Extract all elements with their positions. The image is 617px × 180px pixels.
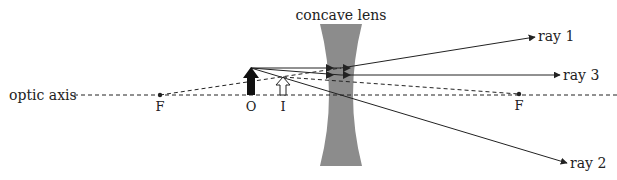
lens-label: concave lens — [295, 7, 386, 23]
image-arrow — [276, 77, 290, 95]
focal-right-label: F — [514, 98, 523, 113]
optic-axis-label: optic axis — [9, 87, 77, 103]
focal-left-label: F — [155, 99, 164, 114]
ray-1-line — [341, 37, 535, 68]
ray-2-label: ray 2 — [570, 155, 606, 171]
image-label: I — [280, 99, 285, 114]
virtual-ray-to-right-focus — [283, 77, 519, 94]
object-label: O — [246, 99, 257, 114]
object-arrow — [243, 67, 259, 95]
ray-diagram: concave lens optic axis F F O I ray 1 ra… — [0, 0, 617, 180]
ray-3-label: ray 3 — [563, 67, 599, 83]
ray-2-line — [251, 68, 567, 163]
ray-1-label: ray 1 — [538, 28, 574, 44]
